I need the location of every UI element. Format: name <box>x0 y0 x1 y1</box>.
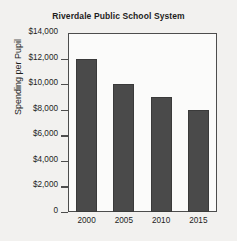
bar-2010 <box>151 97 172 212</box>
y-tick-label: $2,000 <box>33 180 58 189</box>
y-tick-label: $8,000 <box>33 104 58 113</box>
y-tick-label: $4,000 <box>33 155 58 164</box>
x-tick-label: 2015 <box>178 216 218 225</box>
y-tick-mark <box>61 161 68 162</box>
y-tick-label: 0 <box>53 206 58 215</box>
y-tick-mark <box>61 110 68 111</box>
chart-title: Riverdale Public School System <box>0 11 237 21</box>
bar-2005 <box>113 84 134 212</box>
bar-2000 <box>76 59 97 212</box>
y-axis-label: Spending per Pupil <box>13 17 23 137</box>
x-tick-label: 2005 <box>104 216 144 225</box>
y-tick-label: $14,000 <box>28 27 58 36</box>
y-tick-mark <box>61 84 68 85</box>
y-tick-mark <box>61 212 68 213</box>
x-tick-label: 2010 <box>141 216 181 225</box>
x-tick-label: 2000 <box>67 216 107 225</box>
bar-series <box>68 33 217 212</box>
y-tick-mark <box>61 135 68 136</box>
bar-2015 <box>188 110 209 212</box>
chart-figure: Riverdale Public School System Spending … <box>0 0 237 241</box>
y-tick-mark <box>61 186 68 187</box>
y-tick-mark <box>61 59 68 60</box>
y-tick-label: $10,000 <box>28 78 58 87</box>
y-tick-label: $6,000 <box>33 129 58 138</box>
y-tick-label: $12,000 <box>28 53 58 62</box>
